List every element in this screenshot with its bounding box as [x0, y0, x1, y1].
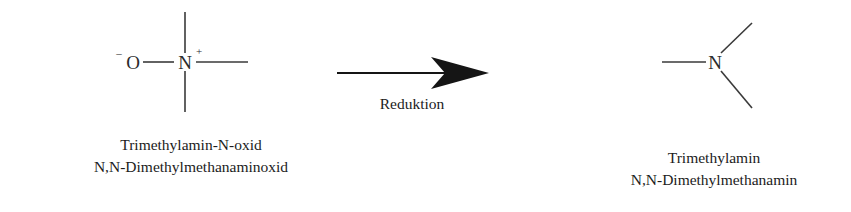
arrow-label: Reduktion: [380, 95, 445, 112]
bond-product-n-methyl-downright: [721, 71, 752, 108]
product-caption-line1: Trimethylamin: [668, 149, 761, 166]
product-nitrogen-atom-label: N: [708, 52, 722, 73]
reactant-caption-line1: Trimethylamin-N-oxid: [120, 136, 262, 153]
product-caption-line2: N,N-Dimethylmethanamin: [631, 171, 798, 188]
reaction-arrow: Reduktion: [337, 57, 489, 112]
reactant-caption-line2: N,N-Dimethylmethanaminoxid: [94, 158, 288, 175]
oxygen-charge-label: –: [115, 47, 122, 59]
reactant-structure: – O N +: [115, 12, 248, 112]
product-caption: Trimethylamin N,N-Dimethylmethanamin: [631, 149, 798, 188]
bond-product-n-methyl-upright: [721, 23, 752, 53]
reactant-caption: Trimethylamin-N-oxid N,N-Dimethylmethana…: [94, 136, 288, 175]
nitrogen-charge-label: +: [196, 45, 202, 57]
oxygen-atom-label: O: [126, 52, 140, 73]
product-structure: N: [662, 23, 752, 108]
nitrogen-atom-label: N: [178, 52, 192, 73]
reaction-scheme: – O N + Trimethylamin-N-oxid N,N-Dimethy…: [0, 0, 851, 212]
